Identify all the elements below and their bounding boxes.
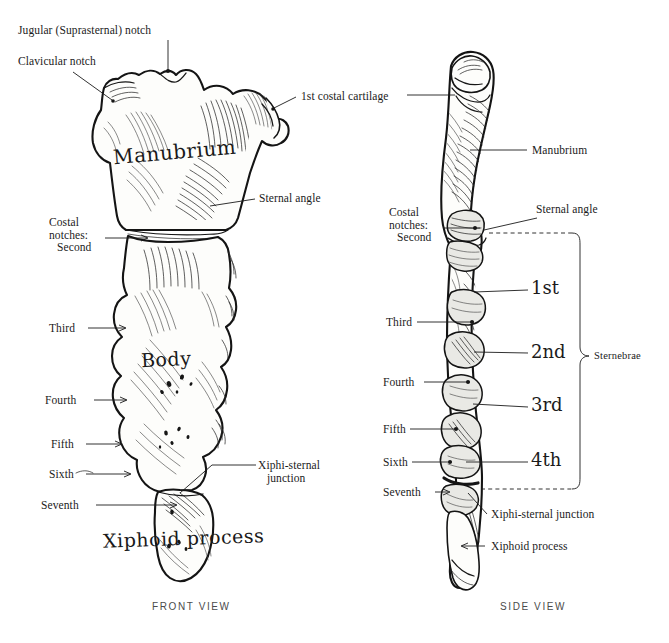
sternebrae-bracket-label: Sternebrae — [594, 350, 641, 361]
front-costal-notch-third-label: Third — [49, 322, 75, 335]
front-costal-notch-sixth-label: Sixth — [49, 468, 74, 481]
side-manubrium-label: Manubrium — [532, 144, 587, 157]
front-view-caption: FRONT VIEW — [152, 601, 231, 612]
front-sternal-angle-label: Sternal angle — [259, 192, 321, 205]
front-costal-notch-fourth-label: Fourth — [45, 394, 76, 407]
side-sternal-angle-label: Sternal angle — [536, 203, 598, 216]
front-costal-notch-fifth-label: Fifth — [51, 438, 74, 451]
side-costal-notch-sixth-label: Sixth — [383, 456, 408, 469]
front-costal-notch-seventh-label: Seventh — [41, 499, 79, 512]
front-body-label: Body — [140, 347, 191, 372]
sternebra-1-label: 1st — [531, 277, 559, 298]
front-costal-notch-second-label: Second — [57, 241, 91, 254]
side-costal-notches-heading: Costal notches: — [389, 206, 428, 231]
front-clavicular-notch-label: Clavicular notch — [18, 55, 96, 68]
front-first-costal-cartilage-label: 1st costal cartilage — [301, 90, 389, 103]
side-costal-notch-second-label: Second — [397, 231, 431, 244]
side-xiphoid-process-label: Xiphoid process — [491, 540, 568, 553]
side-costal-notch-fourth-label: Fourth — [383, 376, 414, 389]
sternebra-3-label: 3rd — [531, 394, 563, 415]
side-costal-notch-seventh-label: Seventh — [383, 486, 421, 499]
sternebra-4-label: 4th — [531, 449, 561, 470]
front-costal-notches-heading: Costal notches: — [49, 216, 88, 241]
side-view-caption: SIDE VIEW — [500, 601, 566, 612]
side-view-sternum — [440, 52, 493, 590]
front-jugular-notch-label: Jugular (Suprasternal) notch — [18, 24, 151, 37]
sternum-figure: .out { fill:#fdfdfb; stroke:#141414; str… — [0, 0, 669, 643]
side-xiphi-sternal-junction-label: Xiphi-sternal junction — [491, 508, 594, 521]
front-xiphi-sternal-junction-label: Xiphi-sternal junction — [258, 459, 320, 484]
side-costal-notch-third-label: Third — [386, 316, 412, 329]
side-costal-notch-fifth-label: Fifth — [383, 423, 406, 436]
sternebra-2-label: 2nd — [531, 341, 566, 362]
